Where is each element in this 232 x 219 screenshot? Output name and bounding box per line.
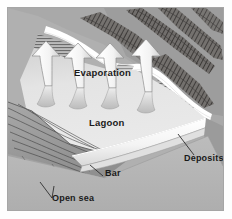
figure-root: Evaporation Lagoon Deposits Bar Open sea	[0, 0, 232, 219]
diagram-illustration	[8, 8, 223, 210]
figure-frame: Evaporation Lagoon Deposits Bar Open sea	[7, 7, 224, 211]
